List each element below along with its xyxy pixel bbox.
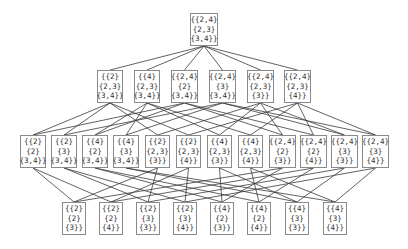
node-label-line: {3}: [328, 214, 342, 224]
node-label-line: {{2}: [148, 137, 166, 147]
node-label-line: {{2,4}: [247, 72, 274, 82]
lattice-node: {{4}{2}{4}}: [247, 202, 271, 235]
node-label-line: {3}: [141, 214, 155, 224]
edge: [64, 168, 185, 202]
lattice-node: {{2,4}{2,3}{3}}: [247, 70, 274, 103]
node-label-line: {{2}: [102, 204, 120, 214]
node-label-line: {{4}: [326, 204, 344, 214]
node-label-line: {3,4}}: [190, 34, 217, 44]
node-label-line: {{4}: [210, 137, 228, 147]
node-label-line: {2,3}: [146, 147, 169, 157]
node-label-line: {3}: [119, 147, 133, 157]
node-label-line: {2,3}: [208, 147, 231, 157]
node-label-line: {3}}: [148, 156, 166, 166]
node-label-line: {4}}: [241, 156, 259, 166]
lattice-node: {{2,4}{3}{3}}: [331, 135, 358, 168]
node-label-line: {3}: [57, 147, 71, 157]
node-label-line: {{2}: [55, 137, 73, 147]
node-label-line: {2}: [178, 82, 192, 92]
node-label-line: {{2}: [179, 137, 197, 147]
node-label-line: {2,3}: [249, 82, 272, 92]
node-label-line: {{2}: [65, 204, 83, 214]
node-label-line: {{2,4}: [269, 137, 296, 147]
lattice-node: {{2}{3}{3,4}}: [51, 135, 77, 168]
node-label-line: {{2}: [24, 137, 42, 147]
edge: [185, 168, 189, 202]
node-label-line: {2,3}: [286, 82, 309, 92]
edge: [110, 103, 158, 135]
edge: [204, 46, 298, 70]
node-label-line: {{2,4}: [190, 15, 217, 25]
lattice-node: {{2,4}{2}{3,4}}: [171, 70, 198, 103]
edge: [335, 168, 376, 202]
node-label-line: {{2,4}: [300, 137, 327, 147]
node-label-line: {{4}: [86, 137, 104, 147]
edge: [110, 103, 189, 135]
lattice-node: {{2,4}{2}{4}}: [300, 135, 327, 168]
node-label-line: {4}}: [304, 156, 322, 166]
node-label-line: {3}}: [139, 223, 157, 233]
lattice-node: {{2,4}{2,3}{4}}: [284, 70, 311, 103]
lattice-node: {{2}{2}{3,4}}: [20, 135, 46, 168]
node-label-line: {{2}: [101, 72, 119, 82]
lattice-node: {{2}{3}{4}}: [173, 202, 197, 235]
node-label-line: {2}: [67, 214, 81, 224]
node-label-line: {2}: [88, 147, 102, 157]
lattice-node: {{2,4}{2}{3}}: [269, 135, 296, 168]
node-label-line: {4}}: [366, 156, 384, 166]
node-label-line: {2,3}: [193, 25, 216, 35]
node-label-line: {3}: [178, 214, 192, 224]
node-label-line: {3,4}}: [112, 156, 139, 166]
node-label-line: {2}: [307, 147, 321, 157]
node-label-line: {2}: [276, 147, 290, 157]
node-label-line: {2}: [215, 214, 229, 224]
node-label-line: {3}}: [65, 223, 83, 233]
node-label-line: {{4}: [138, 72, 156, 82]
node-label-line: {4}}: [102, 223, 120, 233]
node-label-line: {3}}: [335, 156, 353, 166]
node-label-line: {{2,4}: [362, 137, 389, 147]
lattice-node: {{4}{2}{3}}: [210, 202, 234, 235]
edge: [261, 103, 283, 135]
lattice-node: {{2}{2}{4}}: [99, 202, 123, 235]
node-label-line: {{4}: [241, 137, 259, 147]
node-label-line: {3}: [216, 82, 230, 92]
node-label-line: {4}}: [326, 223, 344, 233]
lattice-node: {{4}{2,3}{3}}: [207, 135, 232, 168]
node-label-line: {3,4}}: [133, 91, 160, 101]
edge: [33, 168, 111, 202]
edge: [298, 103, 376, 135]
node-label-line: {{2,4}: [331, 137, 358, 147]
lattice-diagram: {{2,4}{2,3}{3,4}}{{2}{2,3}{3,4}}{{4}{2,3…: [0, 0, 408, 249]
lattice-node: {{4}{3}{3,4}}: [113, 135, 139, 168]
node-label-line: {2,3}: [177, 147, 200, 157]
node-label-line: {2}: [26, 147, 40, 157]
node-label-line: {{2,4}: [284, 72, 311, 82]
lattice-node: {{4}{2,3}{3,4}}: [134, 70, 160, 103]
node-label-line: {3,4}}: [96, 91, 123, 101]
node-label-line: {3,4}}: [19, 156, 46, 166]
edge: [297, 168, 345, 202]
node-label-line: {3,4}}: [209, 91, 236, 101]
node-label-line: {3}}: [210, 156, 228, 166]
node-label-line: {3}: [338, 147, 352, 157]
edge: [261, 103, 345, 135]
node-label-line: {2,3}: [136, 82, 159, 92]
edge: [220, 168, 223, 202]
lattice-node: {{2,4}{3}{4}}: [362, 135, 389, 168]
edge: [251, 168, 336, 202]
lattice-node: {{2,4}{3}{3,4}}: [209, 70, 236, 103]
node-label-line: {3,4}}: [171, 91, 198, 101]
node-label-line: {4}}: [250, 223, 268, 233]
node-label-line: {2,3}: [99, 82, 122, 92]
node-label-line: {{4}: [288, 204, 306, 214]
node-label-line: {4}}: [179, 156, 197, 166]
node-label-line: {3}}: [213, 223, 231, 233]
node-label-line: {2,3}: [239, 147, 262, 157]
edge: [33, 168, 74, 202]
node-label-line: {3}}: [251, 91, 269, 101]
edge: [185, 46, 205, 70]
node-label-line: {3}}: [273, 156, 291, 166]
node-label-line: {{4}: [213, 204, 231, 214]
node-label-line: {{2,4}: [209, 72, 236, 82]
